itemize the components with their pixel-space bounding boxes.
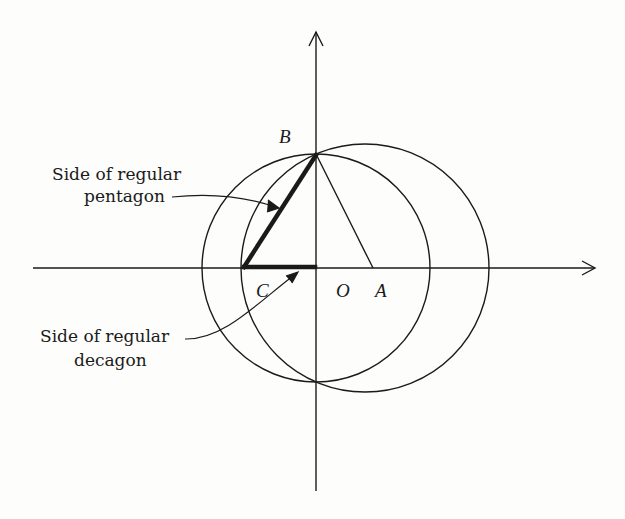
segment-AB xyxy=(316,154,373,268)
pentagon-label-line1: Side of regular xyxy=(52,164,182,184)
label-C: C xyxy=(256,280,269,301)
decagon-label-line2: decagon xyxy=(74,350,147,370)
label-B: B xyxy=(279,126,291,147)
decagon-arrowhead-icon xyxy=(286,272,298,283)
pentagon-leader-arrow xyxy=(172,195,278,208)
pentagon-arrowhead-icon xyxy=(267,200,279,212)
label-A: A xyxy=(373,280,387,301)
pentagon-label-line2: pentagon xyxy=(84,186,165,206)
label-O: O xyxy=(336,280,350,301)
decagon-label-line1: Side of regular xyxy=(40,326,170,346)
decagon-leader-arrow xyxy=(185,273,297,339)
pentagon-decagon-construction: B C O A Side of regular pentagon Side of… xyxy=(0,0,625,519)
